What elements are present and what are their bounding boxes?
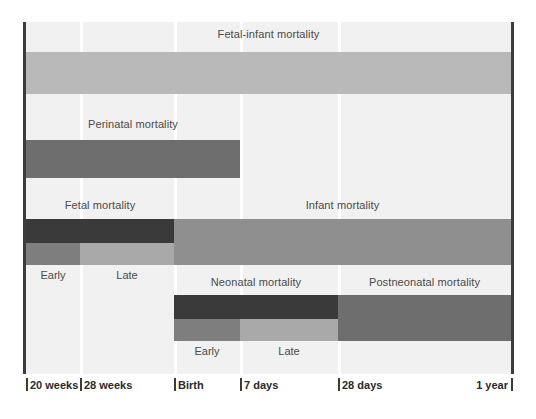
bar-label-postneonatal-mortality: Postneonatal mortality (338, 276, 511, 288)
perinatal-mortality-bar (26, 140, 240, 178)
fetal-mortality-bar (26, 219, 174, 243)
sub-label-fetal-infant-split-early: Early (26, 269, 80, 281)
axis-label-28-days: 28 days (342, 379, 382, 391)
axis-label-28-weeks: 28 weeks (84, 379, 132, 391)
fetal-early-bar (26, 243, 80, 265)
fetal-infant-mortality-bar (26, 52, 511, 94)
postneonatal-mortality-bar (338, 295, 511, 341)
axis-label-7-days: 7 days (244, 379, 278, 391)
axis-label-1-year: 1 year (391, 379, 508, 391)
time-axis: 20 weeks28 weeksBirth7 days28 days1 year (0, 378, 536, 402)
bar-label-perinatal-mortality: Perinatal mortality (26, 118, 240, 130)
axis-tick-28-days (338, 378, 340, 391)
axis-tick-birth (174, 378, 176, 391)
neonatal-late-bar (240, 319, 338, 341)
sub-label-neonatal-split-early: Early (174, 345, 240, 357)
axis-right-rule (511, 22, 514, 374)
neonatal-mortality-bar (174, 295, 338, 319)
bar-label-neonatal-mortality: Neonatal mortality (174, 276, 338, 288)
bar-label-infant-mortality: Infant mortality (174, 199, 511, 211)
axis-tick-20-weeks (26, 378, 28, 391)
sub-label-fetal-infant-split-late: Late (80, 269, 174, 281)
axis-tick-28-weeks (80, 378, 82, 391)
fetal-late-bar (80, 243, 174, 265)
axis-label-birth: Birth (178, 379, 204, 391)
bar-label-fetal-infant-mortality: Fetal-infant mortality (26, 28, 511, 40)
axis-label-20-weeks: 20 weeks (30, 379, 78, 391)
bar-label-fetal-mortality: Fetal mortality (26, 199, 174, 211)
axis-tick-7-days (240, 378, 242, 391)
neonatal-early-bar (174, 319, 240, 341)
sub-label-neonatal-split-late: Late (240, 345, 338, 357)
mortality-timeline-diagram: Fetal-infant mortalityPerinatal mortalit… (0, 0, 536, 419)
axis-tick-1-year (511, 378, 513, 391)
infant-mortality-bar (174, 219, 511, 265)
